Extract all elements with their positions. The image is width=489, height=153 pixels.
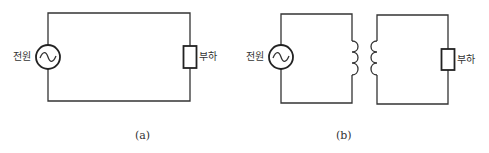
panel-a-caption: (a) [135,130,150,142]
panel-a-load-label: 부하 [199,51,217,63]
panel-b-primary-circuit [269,14,358,103]
panel-b-secondary-wire [377,15,448,104]
panel-b-load-label: 부하 [457,54,475,66]
panel-b-load-resistor-icon [442,49,455,70]
panel-b-source-label: 전원 [246,51,264,63]
panel-b-caption: (b) [336,130,352,142]
secondary-coil-icon [371,41,377,75]
panel-a-source-label: 전원 [13,51,31,63]
panel-a-wire [48,13,190,101]
panel-a-circuit [36,13,197,101]
primary-coil-icon [352,41,358,75]
panel-b-secondary-circuit [371,15,455,104]
panel-a-load-resistor-icon [184,46,197,68]
circuit-diagrams [0,0,489,153]
